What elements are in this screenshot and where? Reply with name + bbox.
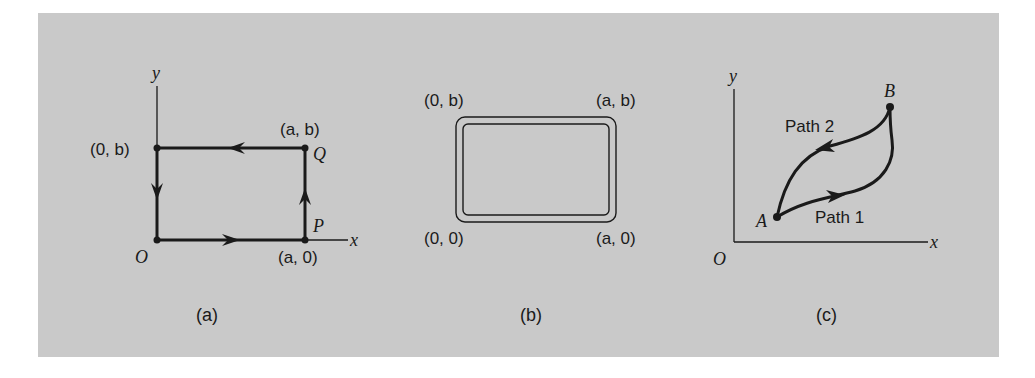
coord-a0: (a, 0) [278, 248, 318, 267]
outer-rounded-rect [456, 117, 616, 222]
coord-ab: (a, b) [280, 120, 320, 139]
corner-bottom-left: (0, 0) [424, 229, 464, 248]
corner-bottom-right: (a, 0) [596, 229, 636, 248]
corner-top-right: (a, b) [596, 91, 636, 110]
caption-a: (a) [196, 305, 218, 325]
y-axis-label: y [727, 66, 737, 86]
panel-b: (0, b) (a, b) (0, 0) (a, 0) (b) [424, 91, 636, 325]
panel-c: y x O A B Path 2 Path 1 (c) [713, 66, 938, 325]
caption-b: (b) [520, 305, 542, 325]
label-P: P [312, 216, 324, 236]
rectangular-path [157, 148, 305, 240]
y-axis-label: y [150, 63, 160, 83]
x-axis-label: x [349, 230, 358, 250]
figure-svg: y x O P Q (a, 0) (a, b) (0, b) (a) (0, b… [0, 0, 1035, 378]
label-A: A [755, 211, 768, 231]
point-B [886, 103, 894, 111]
point-A [773, 213, 781, 221]
label-path-1: Path 1 [815, 208, 864, 227]
x-axis-label: x [929, 232, 938, 252]
coord-0b: (0, b) [90, 140, 130, 159]
point-Q [302, 145, 309, 152]
label-path-2: Path 2 [785, 117, 834, 136]
inner-rounded-rect [463, 124, 609, 215]
point-P [302, 237, 309, 244]
label-B: B [884, 81, 895, 101]
panel-a: y x O P Q (a, 0) (a, b) (0, b) (a) [90, 63, 358, 325]
label-O: O [713, 249, 726, 269]
caption-c: (c) [816, 305, 837, 325]
point-0b [154, 145, 161, 152]
label-O: O [135, 247, 148, 267]
label-Q: Q [313, 144, 326, 164]
corner-top-left: (0, b) [424, 91, 464, 110]
point-O [154, 237, 161, 244]
